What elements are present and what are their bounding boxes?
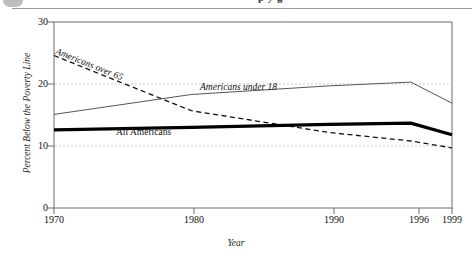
series-line-all-americans [54,123,452,135]
chart-figure: p y g Percent Below the Poverty Line Yea… [0,0,472,260]
series-label-all-americans: All Americans [116,127,171,137]
plot-frame [54,22,452,208]
plot-area [0,0,472,260]
series-label-americans-under-18: Americans under 18 [200,82,277,92]
